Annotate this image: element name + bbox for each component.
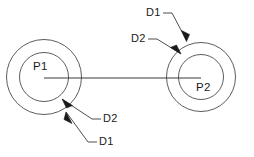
bottom-d1-leader [64, 112, 97, 142]
diagram-canvas: P1 P2 D1 D2 D2 D1 [0, 0, 254, 157]
left-center-label: P1 [33, 61, 48, 73]
top-d1-arrowhead [182, 31, 190, 42]
right-center-label: P2 [196, 82, 211, 94]
top-d2-leader [148, 39, 181, 54]
bottom-d1-label: D1 [99, 136, 114, 147]
top-d1-label: D1 [146, 7, 161, 18]
top-d2-arrowhead [171, 45, 182, 54]
top-d1-leader-line [163, 13, 187, 41]
left-assembly [7, 40, 82, 115]
pulley-diagram-svg [0, 0, 254, 157]
left-outer-circle [7, 40, 82, 115]
top-d1-leader [163, 13, 190, 42]
right-assembly [167, 43, 236, 112]
bottom-d2-label: D2 [103, 113, 118, 124]
right-outer-circle [167, 43, 236, 112]
bottom-d1-leader-line [67, 113, 98, 143]
top-d2-label: D2 [131, 33, 146, 44]
